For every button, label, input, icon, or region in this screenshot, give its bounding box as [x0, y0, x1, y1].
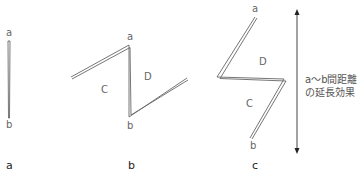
panel-a-line: [8, 41, 10, 118]
panel-b-zigzag: [71, 45, 188, 117]
panel-c-end-label-bottom: b: [250, 141, 256, 151]
panel-b-end-label-bottom: b: [127, 121, 133, 131]
panel-c-region-label-upper: D: [259, 57, 267, 67]
panel-b-end-label-top: a: [127, 32, 133, 42]
distance-annotation: a～b間距離 の延長効果: [305, 73, 357, 99]
panel-a-end-label-top: a: [6, 28, 12, 38]
panel-c-region-label-lower: C: [246, 99, 253, 109]
panel-c-end-label-top: a: [252, 4, 258, 14]
annotation-line-1: a～b間距離: [305, 73, 357, 86]
panel-b-caption: b: [128, 160, 135, 171]
panel-a-caption: a: [6, 160, 13, 171]
panel-a-end-label-bottom: b: [6, 120, 12, 130]
panel-b-region-label-right: D: [144, 72, 152, 82]
panel-b-region-label-left: C: [101, 85, 108, 95]
panel-c-caption: c: [252, 160, 258, 171]
panel-c-zigzag: [217, 17, 286, 139]
distance-arrow: [295, 9, 300, 154]
annotation-line-2: の延長効果: [305, 86, 357, 99]
